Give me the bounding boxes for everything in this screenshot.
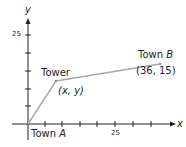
town-a-label: Town A xyxy=(31,129,66,139)
tower-point xyxy=(55,80,58,83)
town-b-coord: (36, 15) xyxy=(136,66,176,76)
town-b-var: B xyxy=(166,49,173,60)
y-axis-label: y xyxy=(25,5,31,15)
x-axis-arrow-icon xyxy=(170,122,176,127)
x-axis-label: x xyxy=(177,119,183,129)
town-a-var: A xyxy=(59,128,66,139)
x-tick-label: 25 xyxy=(111,130,120,137)
town-a-prefix: Town xyxy=(31,128,59,139)
y-tick-label: 25 xyxy=(12,31,21,38)
diagram-canvas: y 25 x 25 Tower (x, y) Town B (36, 15) T… xyxy=(0,0,186,147)
town-b-label: Town B xyxy=(138,50,173,60)
tower-coord: (x, y) xyxy=(58,86,84,96)
tower-label: Tower xyxy=(41,68,70,78)
town-b-prefix: Town xyxy=(138,49,166,60)
y-axis-arrow-icon xyxy=(26,18,31,24)
